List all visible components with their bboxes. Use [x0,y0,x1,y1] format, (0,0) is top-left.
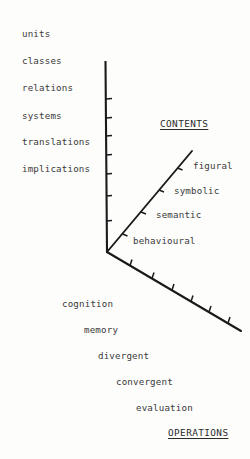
contents-axis-title: CONTENTS [160,119,208,129]
products-label-relations: relations [22,83,73,93]
products-label-classes: classes [22,56,62,66]
operations-label-convergent: convergent [116,377,173,387]
contents-label-semantic: semantic [156,210,201,220]
contents-label-figural: figural [193,161,233,171]
operations-axis-title: OPERATIONS [168,428,228,438]
operations-label-cognition: cognition [62,299,113,309]
products-axis [106,62,113,252]
operations-axis [107,252,241,331]
operations-label-memory: memory [84,325,118,335]
operations-label-divergent: divergent [98,351,149,361]
structure-of-intellect-diagram: units classes relations systems translat… [0,0,250,459]
products-label-implications: implications [22,164,90,174]
products-label-systems: systems [22,111,62,121]
contents-label-symbolic: symbolic [174,186,219,196]
products-label-translations: translations [22,137,90,147]
operations-label-evaluation: evaluation [136,403,193,413]
contents-label-behavioural: behavioural [133,236,196,246]
axes-lines-group [0,0,250,459]
products-label-units: units [22,29,50,39]
